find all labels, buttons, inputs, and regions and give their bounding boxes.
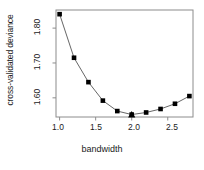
- data-point-1.8: [115, 109, 120, 114]
- data-point-2.2: [144, 110, 149, 115]
- data-point-2.6: [173, 101, 178, 106]
- plot-area: [0, 0, 204, 170]
- data-point-2.4: [158, 107, 163, 112]
- data-point-1.4: [86, 80, 91, 85]
- data-point-1: [57, 12, 62, 17]
- data-line: [60, 14, 190, 114]
- data-markers: [57, 12, 191, 118]
- data-point-1.2: [72, 55, 77, 60]
- data-point-2.8: [187, 94, 192, 99]
- data-point-1.6: [101, 98, 106, 103]
- axis-ticks: [53, 28, 168, 120]
- chart-figure: cross-validated deviance 1.80 1.70 1.60 …: [0, 0, 204, 170]
- plot-frame: [56, 10, 193, 117]
